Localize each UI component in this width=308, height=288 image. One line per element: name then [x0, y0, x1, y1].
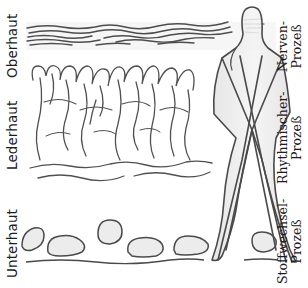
diagram-canvas: Oberhaut Lederhaut Unterhaut Nerven- Pro…	[0, 0, 308, 288]
label-rhythmischer-prozess: Rhythmischer- Prozeß	[276, 91, 304, 184]
label-oberhaut: Oberhaut	[4, 14, 20, 78]
label-nerven-line2: Prozeß	[290, 21, 304, 72]
label-nerven-line1: Nerven-	[276, 21, 290, 72]
label-stoffwechsel-line1: Stoffwechsel-	[276, 199, 290, 284]
skin-and-figure-drawing	[0, 0, 308, 288]
label-stoffwechsel-line2: Prozeß	[290, 199, 304, 284]
label-rhythmischer-line2: Prozeß	[290, 91, 304, 184]
label-rhythmischer-line1: Rhythmischer-	[276, 91, 290, 184]
label-unterhaut: Unterhaut	[4, 209, 20, 278]
label-lederhaut: Lederhaut	[4, 101, 20, 170]
label-stoffwechsel-prozess: Stoffwechsel- Prozeß	[276, 199, 304, 284]
label-nerven-prozess: Nerven- Prozeß	[276, 21, 304, 72]
subcutis-layer	[22, 220, 278, 264]
dermis-layer	[30, 66, 212, 181]
